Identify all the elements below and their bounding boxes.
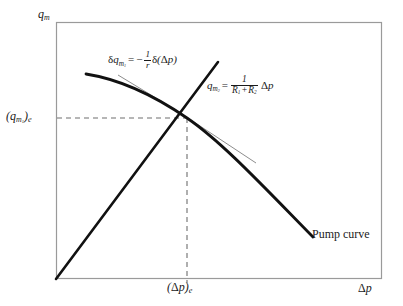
- plot-canvas: [0, 0, 403, 306]
- y-tick-label-operating-flow: (qm1)e: [6, 110, 32, 125]
- tangent-leader-lower-right: [194, 122, 256, 163]
- formula-system-line: qm2=1R1 + R2 Δp: [207, 76, 273, 97]
- figure-container: qm Δp (qm1)e (Δp)e Pump curve δqm1=−1rδ(…: [0, 0, 403, 306]
- pump-characteristic-curve: [86, 74, 313, 237]
- formula-pump-slope: δqm1=−1rδ(Δp): [108, 51, 177, 71]
- x-tick-label-operating-pressure: (Δp)e: [167, 281, 192, 296]
- system-resistance-line: [56, 62, 218, 279]
- x-axis-label: Δp: [358, 282, 372, 294]
- y-axis-label: qm: [38, 8, 50, 22]
- pump-curve-label: Pump curve: [312, 228, 370, 240]
